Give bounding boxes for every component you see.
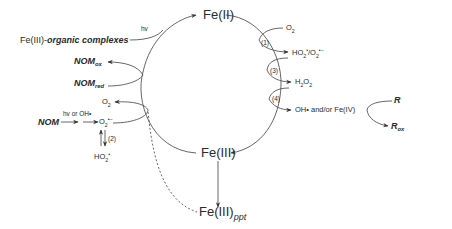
- r-label: R: [394, 96, 401, 105]
- nom-ox-base: NOM: [74, 56, 95, 66]
- fe3-ppt-label: Fe(III)ppt: [199, 205, 246, 218]
- fe3-label: Fe(III): [201, 146, 236, 159]
- step1-label: (1): [261, 40, 269, 47]
- cycle-left-arc: [141, 15, 196, 153]
- superoxide-sub: 2: [105, 122, 108, 128]
- ho2-base: HO: [292, 48, 303, 57]
- dissolution-dashed-path: [148, 112, 197, 212]
- nom-label: NOM: [38, 118, 59, 127]
- fe3-ppt-base: Fe(III): [199, 204, 234, 219]
- nom-ox-arrow: [108, 62, 143, 75]
- step4-label: (4): [272, 96, 280, 103]
- o2-radical-sub: 2: [316, 53, 319, 59]
- fe2-label: Fe(II): [203, 8, 234, 21]
- r-ox-base: R: [391, 121, 398, 131]
- superoxide-sup: •−: [108, 116, 113, 122]
- ho2-left-sub: 2: [105, 157, 108, 163]
- o2-radical-base: /O: [308, 48, 316, 57]
- superoxide-label: O2•−: [99, 118, 113, 126]
- ho2-sub: 2: [303, 53, 306, 59]
- o2-left-label: O2: [102, 98, 111, 106]
- fe3-organic-label: Fe(III)-organic complexes: [20, 36, 129, 45]
- nom-ox-label: NOMox: [74, 57, 102, 66]
- ho2-left-sup: •: [108, 151, 110, 157]
- r-line: [367, 101, 392, 110]
- nom-ox-sub: ox: [95, 61, 102, 67]
- fe3-organic-suffix: organic complexes: [47, 35, 129, 45]
- o2-left-sub: 2: [108, 102, 111, 108]
- nom-red-sub: red: [95, 83, 104, 89]
- nom-red-base: NOM: [74, 78, 95, 88]
- o2-right-sub: 2: [292, 28, 295, 34]
- nom-red-line: [108, 75, 143, 86]
- r-ox-arrow: [367, 110, 388, 126]
- step3-label: (3): [270, 68, 278, 75]
- hv-top-label: hv: [141, 26, 148, 33]
- r-ox-sub: ox: [398, 126, 405, 132]
- h2o2-label: H2O2: [295, 78, 312, 86]
- cycle-right-arc: [226, 15, 281, 153]
- ho2-o2-right-label: HO2•/O2•−: [292, 49, 324, 57]
- superoxide-line: [113, 110, 148, 123]
- ho2-left-label: HO2•: [94, 153, 110, 161]
- h2o2-o-sub: 2: [309, 82, 312, 88]
- fe3-ppt-sub: ppt: [234, 212, 247, 222]
- oh-fe4-label: OH• and/or Fe(IV): [295, 106, 355, 114]
- nom-red-label: NOMred: [74, 79, 104, 88]
- step2-label: (2): [108, 136, 116, 143]
- fe3-organic-prefix: Fe(III)-: [20, 35, 47, 45]
- ho2-left-base: HO: [94, 152, 105, 161]
- o2-radical-sup: •−: [319, 47, 324, 53]
- r-ox-label: Rox: [391, 122, 404, 131]
- hv-or-oh-label: hv or OH•: [63, 111, 91, 118]
- o2-right-label: O2: [286, 24, 295, 32]
